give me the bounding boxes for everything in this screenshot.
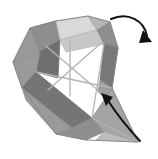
origami-figure [0,0,158,159]
origami-diagram [0,0,158,159]
